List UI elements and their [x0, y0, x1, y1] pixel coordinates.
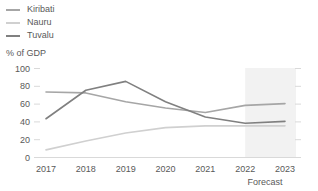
- plot-area: 100806040200 201720182019202020212022202…: [0, 0, 318, 191]
- y-axis-label-40: 40: [20, 117, 30, 127]
- y-axis-label-100: 100: [15, 64, 30, 74]
- x-axis-label-2019: 2019: [116, 164, 136, 174]
- x-axis-label-2018: 2018: [76, 164, 96, 174]
- y-axis-label-60: 60: [20, 99, 30, 109]
- chart-container: Kiribati Nauru Tuvalu % of GDP 100806040…: [0, 0, 318, 191]
- y-axis-label-0: 0: [25, 153, 30, 163]
- forecast-band-group: [245, 68, 296, 157]
- x-axis-label-2020: 2020: [155, 164, 175, 174]
- x-axis-label-2017: 2017: [36, 164, 56, 174]
- x-axis-label-2023: 2023: [275, 164, 295, 174]
- y-axis-labels: 100806040200: [15, 64, 30, 163]
- x-axis-label-2021: 2021: [195, 164, 215, 174]
- y-axis-label-80: 80: [20, 81, 30, 91]
- y-axis-ticks: [34, 69, 40, 158]
- y-axis-label-20: 20: [20, 135, 30, 145]
- forecast-annotation-label: Forecast: [248, 177, 284, 187]
- x-axis-label-2022: 2022: [235, 164, 255, 174]
- forecast-shaded-region: [245, 68, 296, 157]
- x-axis-labels: 2017201820192020202120222023: [36, 164, 295, 174]
